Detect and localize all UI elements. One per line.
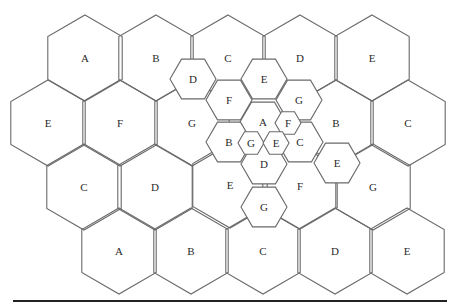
large-cell-a: A [48, 15, 122, 101]
large-cell-c: C [47, 144, 121, 230]
large-cell-e: E [370, 208, 444, 294]
cell-label: F [297, 180, 303, 192]
large-cell-e: E [335, 15, 409, 101]
cell-label: D [260, 158, 268, 170]
large-cell-a: A [82, 208, 156, 294]
cell-label: D [189, 73, 197, 85]
cell-label: B [332, 117, 339, 129]
cell-label: A [259, 116, 267, 128]
large-cell-e: E [11, 80, 85, 166]
cell-label: B [187, 245, 194, 257]
medium-cell-d: D [170, 59, 216, 99]
hex-cell-diagram: ABCDEEFGBCCDEFGABCDE DEFGABCDEG FGE [0, 0, 460, 308]
cell-label: C [259, 245, 266, 257]
cell-label: A [81, 52, 89, 64]
hex-diagram-svg: ABCDEEFGBCCDEFGABCDE DEFGABCDEG FGE [0, 0, 460, 308]
cell-label: E [404, 245, 411, 257]
cell-label: E [273, 137, 280, 149]
medium-cell-e: E [314, 143, 360, 183]
cell-label: E [227, 179, 234, 191]
cell-label: C [404, 117, 411, 129]
cell-label: D [151, 181, 159, 193]
large-cell-c: C [371, 80, 445, 166]
cell-label: G [295, 94, 303, 106]
cell-label: C [80, 181, 87, 193]
cell-label: E [369, 52, 376, 64]
cell-label: A [115, 245, 123, 257]
cell-label: E [45, 117, 52, 129]
cell-label: F [117, 117, 123, 129]
cell-label: B [225, 136, 232, 148]
large-cell-f: F [83, 80, 157, 166]
cell-label: F [285, 117, 291, 129]
cell-label: C [224, 52, 231, 64]
cell-label: G [188, 117, 196, 129]
cell-label: D [331, 245, 339, 257]
cell-label: D [296, 52, 304, 64]
cell-label: E [261, 73, 268, 85]
cell-label: F [226, 94, 232, 106]
large-cell-d: D [298, 208, 372, 294]
cell-label: G [369, 181, 377, 193]
cell-label: G [260, 201, 268, 213]
cell-label: G [247, 137, 255, 149]
cell-label: C [296, 136, 303, 148]
cell-label: E [334, 157, 341, 169]
large-cell-d: D [118, 144, 192, 230]
medium-cell-g: G [241, 187, 287, 227]
cell-label: B [152, 52, 159, 64]
